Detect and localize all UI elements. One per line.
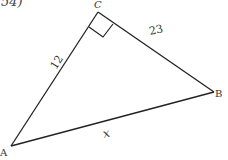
vertex-label-a: A [0, 147, 8, 158]
side-label-ab: x [101, 126, 111, 141]
triangle-figure: 54) C B A 23 12 x [0, 0, 228, 160]
right-angle-marker-icon [89, 24, 113, 37]
side-label-cb: 23 [148, 22, 164, 38]
vertex-label-b: B [215, 88, 222, 99]
problem-number: 54) [1, 0, 23, 9]
geometry-diagram: 54) C B A 23 12 x [0, 0, 228, 160]
vertex-label-c: C [94, 0, 102, 10]
side-label-ac: 12 [48, 53, 67, 72]
